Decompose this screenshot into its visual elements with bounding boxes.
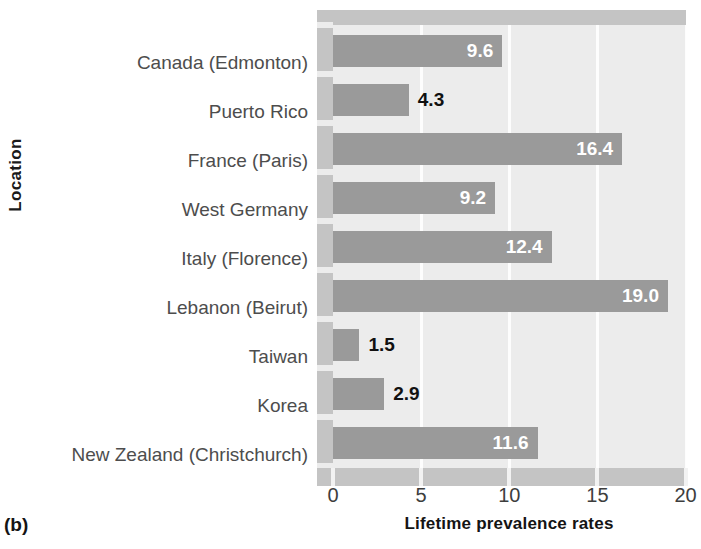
bar-value-label: 11.6 [333, 427, 529, 459]
x-axis-tick-labels: 05101520 [0, 484, 693, 514]
bar-row[interactable]: 4.3 [333, 76, 686, 125]
category-tick [317, 71, 333, 77]
bar-puerto-rico[interactable] [333, 84, 409, 116]
bar-value-label: 9.6 [333, 35, 493, 67]
x-tick-label-20: 20 [661, 484, 701, 507]
category-tick [317, 365, 333, 371]
bar-value-label: 4.3 [418, 84, 444, 116]
bar-row[interactable]: 19.0 [333, 272, 686, 321]
category-label: West Germany [0, 199, 308, 221]
category-tick [317, 316, 333, 322]
category-axis-labels: Canada (Edmonton)Puerto RicoFrance (Pari… [0, 12, 312, 464]
plot-top-band [317, 10, 686, 25]
bar-value-label: 16.4 [333, 133, 613, 165]
category-tick [317, 218, 333, 224]
panel-label: (b) [4, 514, 28, 536]
chart-plot-frame: 9.64.316.49.212.419.01.52.911.6 [317, 10, 686, 486]
category-label: New Zealand (Christchurch) [0, 444, 308, 466]
bar-korea[interactable] [333, 378, 384, 410]
x-tick-label-0: 0 [308, 484, 358, 507]
category-label: Lebanon (Beirut) [0, 297, 308, 319]
bar-row[interactable]: 11.6 [333, 419, 686, 468]
bar-row[interactable]: 9.2 [333, 174, 686, 223]
bar-value-label: 2.9 [393, 378, 419, 410]
category-label: Puerto Rico [0, 101, 308, 123]
plot-area: 9.64.316.49.212.419.01.52.911.6 [333, 25, 686, 468]
bar-value-label: 1.5 [368, 329, 394, 361]
bar-value-label: 19.0 [333, 280, 659, 312]
category-axis-strip [317, 25, 333, 468]
bar-row[interactable]: 16.4 [333, 125, 686, 174]
category-tick [317, 22, 333, 28]
x-tick-label-15: 15 [572, 484, 622, 507]
category-tick [317, 120, 333, 126]
bar-value-label: 9.2 [333, 182, 486, 214]
category-label: Italy (Florence) [0, 248, 308, 270]
category-label: Canada (Edmonton) [0, 52, 308, 74]
x-tick-label-5: 5 [396, 484, 446, 507]
category-label: France (Paris) [0, 150, 308, 172]
bar-row[interactable]: 12.4 [333, 223, 686, 272]
category-tick [317, 414, 333, 420]
category-tick [317, 267, 333, 273]
bar-taiwan[interactable] [333, 329, 359, 361]
category-label: Korea [0, 395, 308, 417]
bar-row[interactable]: 1.5 [333, 321, 686, 370]
bar-value-label: 12.4 [333, 231, 543, 263]
x-tick-label-10: 10 [484, 484, 534, 507]
bar-row[interactable]: 2.9 [333, 370, 686, 419]
category-label: Taiwan [0, 346, 308, 368]
bar-row[interactable]: 9.6 [333, 27, 686, 76]
x-axis-title: Lifetime prevalence rates [333, 514, 685, 534]
category-tick [317, 169, 333, 175]
